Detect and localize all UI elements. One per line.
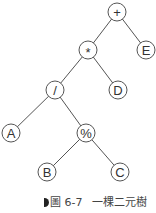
tree-node-C: C: [111, 163, 129, 181]
tree-node-A: A: [2, 124, 20, 142]
tree-node-D: D: [109, 81, 127, 99]
caption-text: 一棵二元樹: [92, 196, 147, 209]
tree-node-E: E: [137, 41, 155, 59]
caption-marker-icon: [44, 198, 49, 207]
binary-tree-diagram: +*E/DA%BC: [0, 0, 156, 190]
node-label: D: [113, 83, 122, 98]
node-label: *: [85, 45, 90, 60]
tree-node-mod: %: [77, 124, 95, 142]
node-label: C: [115, 165, 124, 180]
node-label: /: [53, 83, 57, 98]
tree-node-B: B: [38, 163, 56, 181]
tree-node-plus: +: [108, 3, 126, 21]
tree-nodes: +*E/DA%BC: [2, 3, 155, 181]
node-label: %: [80, 126, 92, 141]
node-label: B: [43, 165, 52, 180]
tree-node-div: /: [46, 81, 64, 99]
node-label: +: [113, 5, 121, 20]
tree-node-mul: *: [79, 41, 97, 60]
node-label: E: [142, 43, 151, 58]
figure-label: 圖 6-7: [50, 196, 82, 209]
node-label: A: [7, 126, 16, 141]
figure-caption: 圖 6-7一棵二元樹: [44, 193, 147, 209]
